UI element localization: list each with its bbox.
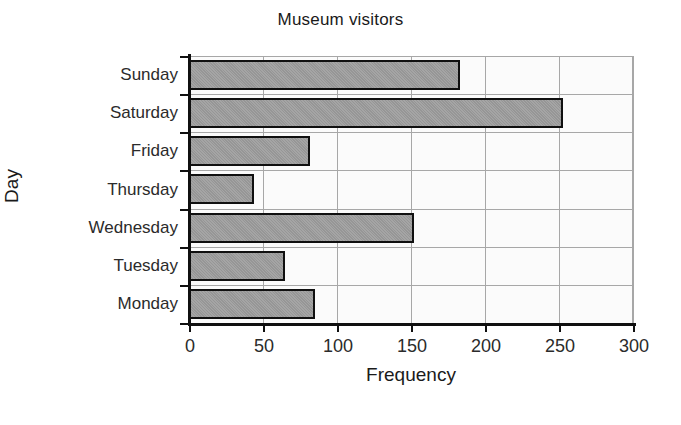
y-tick-mark bbox=[180, 170, 189, 172]
y-tick-label-tuesday: Tuesday bbox=[113, 256, 178, 276]
bar-row bbox=[189, 56, 633, 94]
x-tick-label: 300 bbox=[619, 336, 649, 357]
gridline-vertical bbox=[633, 56, 634, 323]
x-tick-label: 200 bbox=[471, 336, 501, 357]
y-axis-tick-labels: SundaySaturdayFridayThursdayWednesdayTue… bbox=[0, 0, 178, 425]
x-tick-mark bbox=[411, 323, 413, 332]
y-tick-mark bbox=[180, 323, 189, 325]
bar-row bbox=[189, 170, 633, 208]
y-tick-mark bbox=[180, 209, 189, 211]
y-tick-label-thursday: Thursday bbox=[107, 180, 178, 200]
bar-row bbox=[189, 94, 633, 132]
x-tick-mark bbox=[263, 323, 265, 332]
y-tick-label-friday: Friday bbox=[131, 141, 178, 161]
bar-wednesday[interactable] bbox=[189, 213, 414, 243]
x-axis-title: Frequency bbox=[189, 364, 633, 386]
bar-tuesday[interactable] bbox=[189, 251, 285, 281]
x-tick-mark bbox=[485, 323, 487, 332]
y-tick-label-saturday: Saturday bbox=[110, 103, 178, 123]
bar-row bbox=[189, 132, 633, 170]
x-tick-mark bbox=[633, 323, 635, 332]
y-tick-label-wednesday: Wednesday bbox=[89, 218, 178, 238]
x-tick-label: 150 bbox=[397, 336, 427, 357]
bar-friday[interactable] bbox=[189, 136, 310, 166]
y-tick-mark bbox=[180, 56, 189, 58]
bar-thursday[interactable] bbox=[189, 174, 254, 204]
bar-monday[interactable] bbox=[189, 289, 315, 319]
plot-area bbox=[189, 56, 633, 323]
bar-row bbox=[189, 209, 633, 247]
bar-chart-figure: Museum visitors 050100150200250300 Sunda… bbox=[0, 0, 681, 425]
x-tick-mark bbox=[337, 323, 339, 332]
bar-row bbox=[189, 247, 633, 285]
x-tick-label: 50 bbox=[254, 336, 274, 357]
x-tick-mark bbox=[559, 323, 561, 332]
y-tick-label-sunday: Sunday bbox=[120, 65, 178, 85]
y-tick-mark bbox=[180, 94, 189, 96]
y-tick-label-monday: Monday bbox=[118, 294, 178, 314]
bar-row bbox=[189, 285, 633, 323]
y-tick-mark bbox=[180, 247, 189, 249]
bar-sunday[interactable] bbox=[189, 60, 460, 90]
y-axis-title: Day bbox=[1, 169, 23, 203]
y-tick-mark bbox=[180, 132, 189, 134]
x-tick-label: 100 bbox=[323, 336, 353, 357]
x-tick-mark bbox=[189, 323, 191, 332]
bar-saturday[interactable] bbox=[189, 98, 563, 128]
y-tick-mark bbox=[180, 285, 189, 287]
x-tick-label: 0 bbox=[185, 336, 195, 357]
x-tick-label: 250 bbox=[545, 336, 575, 357]
